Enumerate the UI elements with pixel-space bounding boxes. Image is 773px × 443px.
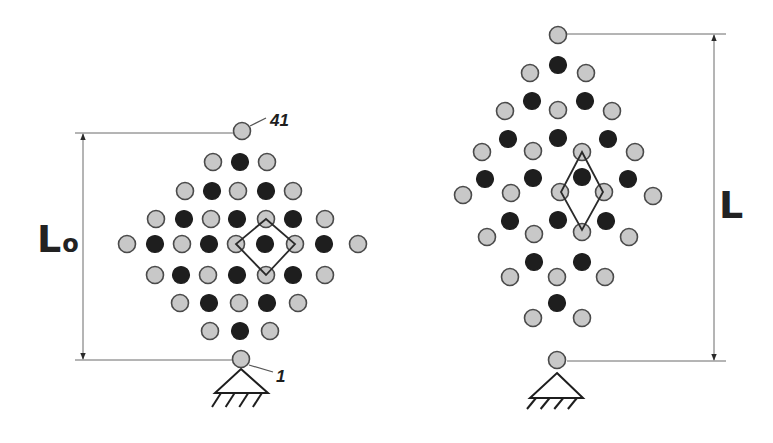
ground-hatch xyxy=(239,393,248,407)
ground-hatch xyxy=(253,393,262,407)
grey-node xyxy=(627,144,644,161)
node-1-leader xyxy=(249,365,273,372)
grey-node xyxy=(549,352,566,369)
grey-node xyxy=(119,236,136,253)
grey-node xyxy=(474,144,491,161)
grey-node xyxy=(172,295,189,312)
dimension-label-l0: Lo xyxy=(37,217,79,261)
grey-node xyxy=(522,65,539,82)
grey-node xyxy=(233,351,250,368)
grey-node xyxy=(574,310,591,327)
grey-node xyxy=(174,236,191,253)
left-node-lattice xyxy=(119,123,367,368)
support-triangle xyxy=(215,369,268,393)
grey-node xyxy=(503,185,520,202)
black-node xyxy=(258,183,275,200)
right-node-lattice xyxy=(455,27,662,369)
black-node xyxy=(550,212,567,229)
grey-node xyxy=(147,267,164,284)
black-node xyxy=(549,295,566,312)
black-node xyxy=(524,93,541,110)
grey-node xyxy=(205,154,222,171)
black-node xyxy=(574,254,591,271)
black-node xyxy=(176,211,193,228)
grey-node xyxy=(645,188,662,205)
ground-hatch xyxy=(212,393,221,407)
grey-node xyxy=(526,226,543,243)
grey-node xyxy=(621,229,638,246)
grey-node xyxy=(230,183,247,200)
grey-node xyxy=(497,103,514,120)
black-node xyxy=(232,323,249,340)
grey-node xyxy=(549,269,566,286)
dimension-label-l0-sub: o xyxy=(62,230,79,258)
grey-node xyxy=(525,143,542,160)
ground-hatch xyxy=(541,398,550,409)
node-41-label: 41 xyxy=(269,111,289,130)
grey-node xyxy=(574,224,591,241)
ground-hatch xyxy=(554,398,563,409)
left-structure: 41 1 Lo xyxy=(37,111,367,407)
grey-node xyxy=(597,269,614,286)
black-node xyxy=(526,254,543,271)
black-node xyxy=(229,211,246,228)
black-node xyxy=(500,131,517,148)
black-node xyxy=(204,183,221,200)
lattice-deformation-diagram: 41 1 Lo L xyxy=(0,0,773,443)
grey-node xyxy=(290,295,307,312)
grey-node xyxy=(479,229,496,246)
black-node xyxy=(257,236,274,253)
grey-node xyxy=(234,123,251,140)
grey-node xyxy=(502,269,519,286)
black-node xyxy=(577,93,594,110)
ground-hatch xyxy=(226,393,235,407)
grey-node xyxy=(177,183,194,200)
grey-node xyxy=(148,211,165,228)
black-node xyxy=(285,267,302,284)
black-node xyxy=(147,236,164,253)
black-node xyxy=(173,267,190,284)
grey-node xyxy=(350,236,367,253)
black-node xyxy=(550,130,567,147)
black-node xyxy=(525,170,542,187)
node-1-label: 1 xyxy=(276,367,285,386)
grey-node xyxy=(285,183,302,200)
grey-node xyxy=(604,103,621,120)
support-triangle xyxy=(530,373,583,398)
grey-node xyxy=(259,154,276,171)
node-41-leader xyxy=(250,118,266,126)
black-node xyxy=(229,267,246,284)
right-structure: L xyxy=(455,27,744,410)
grey-node xyxy=(262,323,279,340)
black-node xyxy=(574,169,591,186)
grey-node xyxy=(203,211,220,228)
dimension-label-l0-main: L xyxy=(37,217,61,261)
grey-node xyxy=(550,102,567,119)
ground-hatch xyxy=(527,398,536,409)
black-node xyxy=(316,236,333,253)
grey-node xyxy=(525,310,542,327)
black-node xyxy=(201,295,218,312)
grey-node xyxy=(455,187,472,204)
black-node xyxy=(477,171,494,188)
black-node xyxy=(598,213,615,230)
grey-node xyxy=(550,27,567,44)
right-pin-support-icon xyxy=(527,373,583,409)
dimension-label-l: L xyxy=(719,183,743,227)
ground-hatch xyxy=(568,398,577,409)
black-node xyxy=(259,295,276,312)
black-node xyxy=(550,57,567,74)
black-node xyxy=(502,213,519,230)
grey-node xyxy=(202,323,219,340)
grey-node xyxy=(317,267,334,284)
black-node xyxy=(620,171,637,188)
left-pin-support-icon xyxy=(212,369,268,407)
grey-node xyxy=(578,65,595,82)
black-node xyxy=(285,211,302,228)
grey-node xyxy=(231,295,248,312)
diagram-canvas: 41 1 Lo L xyxy=(0,0,773,443)
black-node xyxy=(201,236,218,253)
black-node xyxy=(232,154,249,171)
grey-node xyxy=(317,211,334,228)
grey-node xyxy=(200,267,217,284)
